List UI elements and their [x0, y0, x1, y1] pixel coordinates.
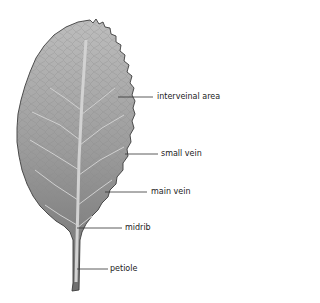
label-petiole: petiole [110, 264, 137, 274]
label-interveinal-area: interveinal area [157, 92, 220, 102]
label-small-vein: small vein [161, 149, 202, 159]
label-midrib: midrib [125, 223, 151, 233]
label-main-vein: main vein [151, 187, 190, 197]
